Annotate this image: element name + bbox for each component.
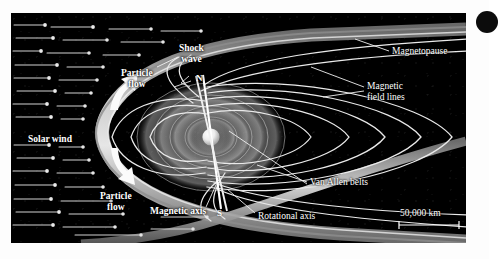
label-north-pole: N [196, 73, 203, 83]
label-magnetic-axis: Magnetic axis [150, 206, 206, 217]
label-south-pole: S [217, 208, 222, 218]
magnetosphere-diagram-panel: Solar wind Particle flow Particle flow S… [11, 13, 466, 243]
label-solar-wind: Solar wind [28, 134, 72, 145]
label-magnetic-field-lines: Magnetic field lines [367, 81, 405, 102]
label-particle-flow-lower: Particle flow [100, 191, 132, 212]
label-scale-bar: 50,000 km [400, 208, 441, 219]
label-rotational-axis: Rotational axis [258, 211, 315, 222]
label-van-allen-belts: Van Allen belts [310, 177, 368, 188]
label-magnetopause: Magnetopause [392, 46, 447, 57]
label-particle-flow-upper: Particle flow [121, 68, 153, 89]
label-shock-wave: Shock wave [179, 43, 204, 64]
page-corner-artifact [476, 11, 498, 33]
